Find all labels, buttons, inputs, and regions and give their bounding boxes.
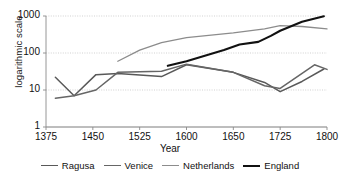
line-chart: logarithmic scale Year 1101001000 137514… [0,0,340,183]
axis-lines [43,16,327,130]
legend-label: Venice [125,160,154,171]
x-tick-label: 1800 [307,131,340,142]
x-tick-label: 1725 [260,131,300,142]
legend-swatch-icon [162,165,179,166]
series-line-england [168,16,324,66]
x-tick-label: 1375 [26,131,66,142]
y-tick-label: 100 [6,46,40,57]
series-lines [55,16,327,98]
legend-item-ragusa[interactable]: Ragusa [41,160,95,171]
legend-label: England [264,160,299,171]
legend-item-england[interactable]: England [243,160,299,171]
gridlines [46,16,327,127]
series-line-netherlands [118,26,327,62]
x-tick-label: 1600 [167,131,207,142]
series-line-venice [55,64,327,98]
x-axis-label: Year [0,143,340,154]
chart-legend: RagusaVeniceNetherlandsEngland [0,160,340,171]
series-line-ragusa [55,65,324,96]
x-tick-label: 1650 [213,131,253,142]
y-tick-label: 1 [6,120,40,131]
x-tick-label: 1450 [73,131,113,142]
x-tick-label: 1525 [120,131,160,142]
legend-item-venice[interactable]: Venice [104,160,154,171]
legend-item-netherlands[interactable]: Netherlands [162,160,234,171]
legend-swatch-icon [243,165,260,167]
legend-swatch-icon [104,165,121,166]
plot-area [0,0,340,183]
y-tick-label: 10 [6,83,40,94]
legend-label: Ragusa [62,160,95,171]
legend-swatch-icon [41,165,58,166]
legend-label: Netherlands [183,160,234,171]
y-tick-label: 1000 [6,9,40,20]
